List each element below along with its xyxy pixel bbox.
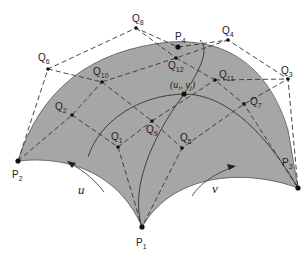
bezier-surface-diagram: P1 P2 P3 P4 Q1 Q2 Q3 Q4 Q5 Q6 Q7 Q8 Q9 Q… [0,0,308,258]
point-uivj [181,91,186,96]
label-u: u [78,182,85,197]
point-q1 [116,145,120,149]
point-q8 [134,26,138,30]
point-q7 [242,102,246,106]
label-q4: Q4 [222,25,234,38]
point-p4 [175,44,180,49]
point-q6 [46,67,50,71]
point-q9 [150,119,154,123]
label-v: v [212,181,218,196]
label-p2: P2 [12,169,23,182]
point-q10 [100,80,104,84]
label-q6: Q6 [38,52,50,65]
point-q11 [213,78,217,82]
point-q5 [180,146,184,150]
point-p1 [139,224,144,229]
point-q2 [70,113,74,117]
point-q4 [226,38,230,42]
point-p3 [295,185,300,190]
label-p1: P1 [136,237,147,250]
label-q8: Q8 [132,13,144,26]
point-p2 [15,158,20,163]
